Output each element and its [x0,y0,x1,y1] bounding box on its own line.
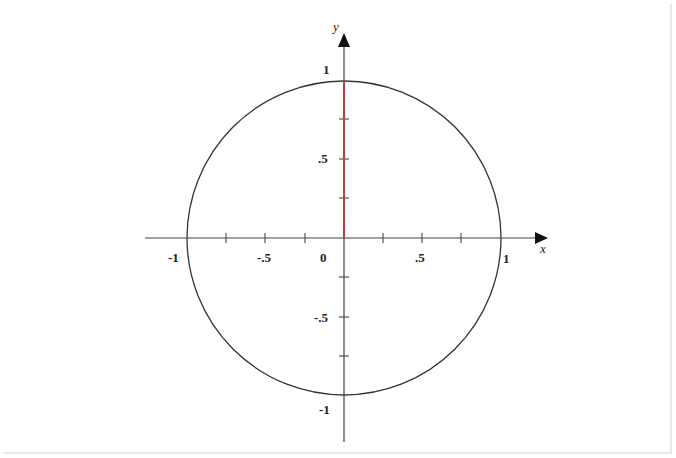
y-axis-label: y [331,19,339,34]
x-axis-label: x [539,241,546,256]
x-tick-label: 1 [503,251,510,266]
y-axis-arrow-icon [338,33,350,47]
x-tick-label: .5 [415,250,425,265]
x-tick-label: -1 [168,250,179,265]
y-tick-label: -1 [319,402,330,417]
x-tick-label: 0 [320,250,327,265]
y-tick-label: -.5 [314,310,329,325]
unit-circle-diagram: -1 -.5 0 .5 1 1 .5 -.5 -1 x y [0,0,676,458]
y-tick-label: 1 [323,62,330,77]
x-tick-label: -.5 [257,250,272,265]
y-tick-label: .5 [318,151,328,166]
